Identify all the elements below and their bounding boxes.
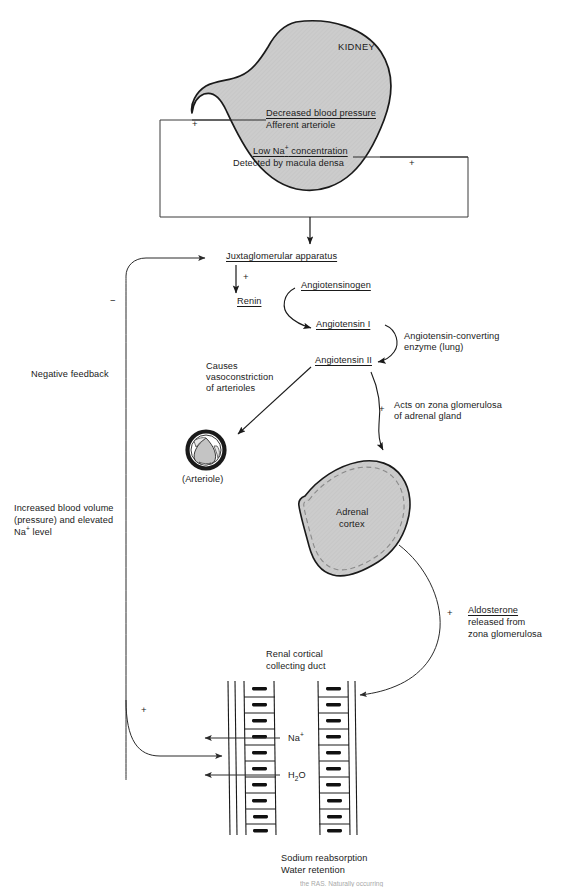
zona-glomerulosa-line1: Acts on zona glomerulosa [394,400,502,412]
aldosterone-line2: released from [468,617,525,629]
arrow-aldosterone-to-duct [360,545,440,695]
sign-plus-aldosterone: + [447,608,453,618]
adrenal-cortex-line2: cortex [339,519,365,531]
vasoconstriction-line3: of arterioles [206,383,255,395]
aldosterone-line3: zona glomerulosa [468,629,542,641]
sodium-reabsorption-label: Sodium reabsorption [281,853,368,865]
negative-feedback-loop [126,258,205,780]
na-level-suffix: level [30,527,52,537]
adrenal-cortex-line1: Adrenal [336,507,368,519]
water-h-text: H [288,770,295,780]
angiotensin-i-label: Angiotensin I [316,319,370,331]
zona-glomerulosa-line2: of adrenal gland [394,411,461,423]
increased-volume-line1: Increased blood volume [14,503,114,515]
duct-right-wall [318,681,357,835]
sign-plus-zona: + [379,404,385,414]
low-na-label: Low Na+ concentration [253,146,348,158]
arteriole-caption: (Arteriole) [182,474,223,486]
angiotensin-ii-label: Angiotensin II [315,355,372,367]
duct-title-line2: collecting duct [266,661,326,673]
macula-densa-label: Detected by macula densa [233,158,344,170]
na-level-text: Na [14,527,26,537]
na-ion-label: Na+ [288,733,304,745]
duct-title-line1: Renal cortical [266,649,323,661]
low-na-suffix: concentration [289,146,348,156]
water-retention-label: Water retention [281,865,345,877]
kidney-label: KIDNEY [338,41,375,53]
water-label: H2O [288,770,306,782]
low-na-text: Low Na [253,146,285,156]
aldosterone-line1: Aldosterone [468,605,518,617]
juxtaglomerular-apparatus-label: Juxtaglomerular apparatus [226,251,337,263]
arteriole-icon [188,432,225,469]
vasoconstriction-line1: Causes [206,361,238,373]
raas-diagram-graphics [0,0,569,887]
water-o-text: O [299,770,306,780]
arrow-ai-to-aii [378,325,397,362]
ace-label-line1: Angiotensin-converting [404,331,500,343]
ace-label-line2: enzyme (lung) [404,342,463,354]
sign-plus-afferent: + [192,119,198,129]
afferent-arteriole-label: Afferent arteriole [266,120,335,132]
arrow-angiotensinogen-to-ai [284,288,311,328]
sign-plus-macula: + [409,158,415,168]
figure-caption: the RAS. Naturally occurring [300,880,383,887]
decreased-bp-label: Decreased blood pressure [266,108,376,120]
renin-label: Renin [237,296,261,308]
sign-plus-duct-feedback: + [141,705,147,715]
increased-volume-line3: Na+ level [14,527,52,539]
sign-minus-feedback: − [110,296,116,306]
collecting-duct [228,681,357,835]
na-ion-text: Na [288,733,300,743]
sign-plus-renin: + [243,272,249,282]
diagram-canvas: KIDNEY Decreased blood pressure Afferent… [0,0,569,887]
angiotensinogen-label: Angiotensinogen [301,280,371,292]
negative-feedback-label: Negative feedback [31,369,109,381]
stimulus-box-lower [380,157,468,217]
duct-left-wall [228,681,276,835]
na-ion-superscript: + [300,731,304,738]
vasoconstriction-line2: vasoconstriction [206,372,273,384]
